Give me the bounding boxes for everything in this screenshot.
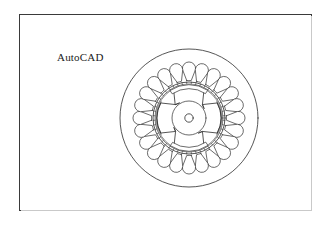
autocad-label: AutoCAD	[57, 51, 104, 63]
motor-cross-section-drawing	[114, 43, 264, 193]
screenshot-canvas: AutoCAD	[0, 0, 330, 225]
drawing-border-frame	[19, 14, 312, 211]
rotor-shaft-hole	[185, 114, 193, 122]
